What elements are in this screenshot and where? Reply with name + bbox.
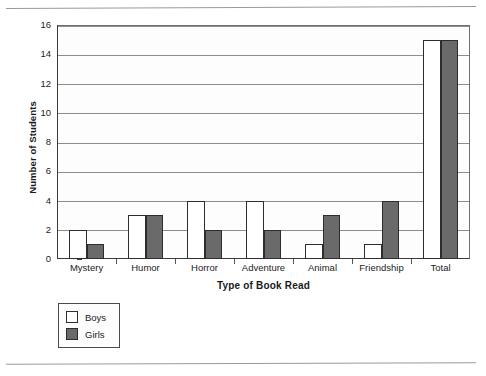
x-axis-title: Type of Book Read	[57, 280, 470, 291]
gridline	[58, 113, 469, 114]
y-axis-tick-label: 12	[25, 78, 51, 89]
y-axis-tick-label: 14	[25, 48, 51, 59]
legend-label-girls: Girls	[85, 329, 105, 340]
gridline	[58, 172, 469, 173]
gridline	[58, 230, 469, 231]
bar-chart-figure: Number of Students 0246810121416 Mystery…	[0, 0, 486, 376]
legend-swatch-boys-icon	[66, 311, 78, 323]
gridline	[58, 55, 469, 56]
chart-legend: Boys Girls	[58, 303, 120, 348]
y-axis-ticks: 0246810121416	[25, 25, 51, 259]
gridline	[58, 201, 469, 202]
legend-swatch-girls-icon	[66, 328, 78, 340]
y-axis-tick-label: 8	[25, 136, 51, 147]
x-axis-tick-label-adventure: Adventure	[242, 262, 285, 273]
y-axis-tick-label: 0	[25, 253, 51, 264]
y-axis-tick-label: 10	[25, 107, 51, 118]
x-axis-tick-label-humor: Humor	[131, 262, 160, 273]
plot-area	[57, 25, 470, 259]
x-axis-tick-label-mystery: Mystery	[70, 262, 103, 273]
legend-label-boys: Boys	[85, 312, 106, 323]
x-axis-tick-label-horror: Horror	[191, 262, 218, 273]
gridline	[58, 26, 469, 27]
y-axis-tick-label: 4	[25, 195, 51, 206]
y-axis-tick-label: 16	[25, 19, 51, 30]
gridline	[58, 84, 469, 85]
y-axis-tick-label: 6	[25, 165, 51, 176]
gridline	[58, 143, 469, 144]
x-axis-tick-label-friendship: Friendship	[359, 262, 403, 273]
x-axis-tick-label-total: Total	[430, 262, 450, 273]
y-axis-tick-label: 2	[25, 224, 51, 235]
x-axis-tick-label-animal: Animal	[308, 262, 337, 273]
legend-item-boys: Boys	[66, 311, 106, 323]
x-axis-tick-labels: MysteryHumorHorrorAdventureAnimalFriends…	[57, 262, 470, 278]
legend-item-girls: Girls	[66, 328, 105, 340]
